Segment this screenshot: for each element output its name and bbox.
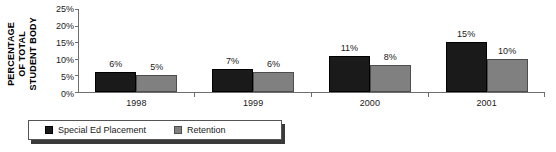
bar-special-ed-1999: 7%: [212, 69, 253, 92]
x-label-2000: 2000: [312, 97, 429, 111]
bar-special-ed-2000: 11%: [329, 56, 370, 93]
bar-value-label: 6%: [267, 60, 280, 69]
bar-retention-2000: 8%: [370, 65, 411, 92]
bar-value-label: 6%: [109, 60, 122, 69]
bar-group-1998: 6% 5%: [78, 9, 195, 93]
y-tick-label-20: 20%: [56, 22, 74, 31]
y-axis-title-line-2: OF TOTAL: [17, 31, 28, 77]
x-label-1998: 1998: [78, 97, 195, 111]
bar-chart: PERCENTAGE OF TOTAL STUDENT BODY 25% 20%…: [0, 0, 556, 152]
bar-retention-2001: 10%: [487, 59, 528, 92]
legend-item-retention: Retention: [174, 125, 226, 135]
bar-value-label: 11%: [341, 44, 358, 53]
legend-label: Special Ed Placement: [58, 125, 146, 135]
legend: Special Ed Placement Retention: [28, 120, 282, 140]
legend-label: Retention: [187, 125, 226, 135]
bar-retention-1999: 6%: [253, 72, 294, 92]
bar-special-ed-1998: 6%: [95, 72, 136, 92]
bar-retention-1998: 5%: [136, 75, 177, 92]
legend-swatch-icon: [45, 126, 53, 134]
y-tick-label-15: 15%: [56, 39, 74, 48]
plot-area: 6% 5% 7% 6%: [78, 9, 545, 93]
bar-group-1999: 7% 6%: [195, 9, 312, 93]
y-axis-tick-labels: 25% 20% 15% 10% 5% 0%: [44, 5, 76, 95]
bar-group-2000: 11% 8%: [312, 9, 429, 93]
legend-item-special-ed-placement: Special Ed Placement: [45, 125, 146, 135]
y-tick-label-5: 5%: [61, 73, 74, 82]
bar-group-2001: 15% 10%: [428, 9, 545, 93]
legend-swatch-icon: [174, 126, 182, 134]
bar-value-label: 8%: [384, 53, 397, 62]
y-tick-label-25: 25%: [56, 5, 74, 14]
y-axis-title-line-3: STUDENT BODY: [28, 17, 39, 90]
x-label-2001: 2001: [428, 97, 545, 111]
bar-special-ed-2001: 15%: [446, 42, 487, 92]
bar-value-label: 7%: [226, 57, 239, 66]
bar-groups: 6% 5% 7% 6%: [78, 9, 545, 93]
y-tick-label-10: 10%: [56, 56, 74, 65]
y-axis-title-line-1: PERCENTAGE: [6, 22, 17, 86]
x-axis-category-labels: 1998 1999 2000 2001: [78, 97, 545, 111]
x-label-1999: 1999: [195, 97, 312, 111]
bar-value-label: 15%: [457, 30, 475, 39]
bar-value-label: 10%: [498, 47, 516, 56]
y-tick-label-0: 0%: [61, 90, 74, 99]
y-axis-title: PERCENTAGE OF TOTAL STUDENT BODY: [0, 4, 44, 104]
bar-value-label: 5%: [150, 63, 163, 72]
